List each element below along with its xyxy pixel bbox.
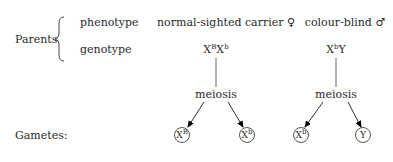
gamete-2: Xb: [242, 129, 253, 142]
parents-label: Parents: [15, 33, 57, 46]
phenotype-label: phenotype: [80, 16, 139, 29]
father-meiosis-label: meiosis: [315, 88, 357, 101]
inheritance-diagram: Parents phenotype genotype normal-sighte…: [0, 0, 393, 162]
gamete-1: XB: [176, 129, 188, 142]
arrow-icon: [348, 102, 361, 127]
gamete-3: Xb: [296, 129, 307, 142]
mother-phenotype: normal-sighted carrier ♀: [157, 16, 295, 29]
genotype-label: genotype: [80, 43, 131, 56]
mother-meiosis-label: meiosis: [195, 88, 237, 101]
mother-genotype: XBXb: [203, 43, 228, 56]
father-phenotype: colour-blind ♂: [305, 16, 386, 29]
gamete-4: Y: [360, 129, 366, 142]
arrow-icon: [188, 102, 204, 127]
gametes-label: Gametes:: [15, 129, 68, 142]
arrow-icon: [305, 102, 323, 127]
arrow-icon: [228, 102, 243, 127]
father-genotype: XbY: [326, 43, 346, 56]
